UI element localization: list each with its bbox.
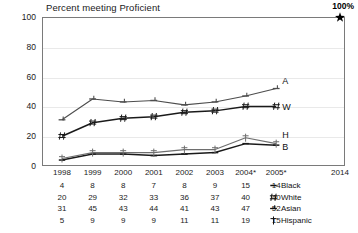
chart-root: Percent meeting Proficient 100% 02040608… [0,0,358,233]
table-cell: 43 [119,204,128,213]
table-cell: 41 [180,204,189,213]
x-tick-label: 2001 [145,168,163,177]
legend-label: White [281,193,301,202]
table-cell: 8 [182,181,186,190]
y-tick-label: 100 [22,12,36,22]
table-cell: 40 [241,193,250,202]
table-cell: 4 [60,181,64,190]
series-end-label-asian: A [282,76,288,86]
chart-title: Percent meeting Proficient [46,2,160,13]
table-cell: 36 [180,193,189,202]
legend-item-asian[interactable]: Asian [267,203,301,214]
series-marker-star [335,12,345,21]
table-cell: 7 [152,181,156,190]
x-tick-label-target-year: 2014 [331,168,349,177]
series-marker-hash [273,103,280,110]
table-cell: 43 [211,204,220,213]
y-tick-label: 60 [27,72,36,82]
series-white [58,103,279,140]
legend-item-black[interactable]: Black [267,180,301,191]
series-marker-dagger [271,216,277,224]
table-cell: 29 [88,193,97,202]
table-cell: 44 [149,204,158,213]
x-tick-label: 2000 [114,168,132,177]
x-tick-label: 1999 [84,168,102,177]
y-tick-label: 0 [31,161,36,171]
series-marker-dash-tick [270,205,277,209]
series-black [59,144,280,160]
series-end-label-white: W [282,102,291,112]
x-tick-label: 2002 [175,168,193,177]
y-tick-label: 40 [27,101,36,111]
table-cell: 8 [90,181,94,190]
series-marker-dash-tick [181,102,188,106]
target-percent-annotation: 100% [332,1,354,11]
series-hispanic [59,134,279,163]
series-marker-dash-tick [120,99,127,103]
x-tick-label: 1998 [53,168,71,177]
table-cell: 33 [149,193,158,202]
legend-label: Black [281,181,301,190]
series-marker-hash [270,193,277,200]
series-end-label-hispanic: H [282,130,289,140]
table-cell: 9 [213,181,217,190]
x-tick-label: 2005* [266,168,287,177]
table-cell: 9 [90,216,94,225]
x-tick-label: 2004* [235,168,256,177]
series-marker-dash-tick [89,96,96,100]
legend-label: Asian [281,204,301,213]
series-marker-dash-tick [212,99,219,103]
x-axis-labels: 1998199920002001200220032004*2005*2014 [42,168,345,180]
chart-legend: BlackWhiteAsianHispanic [267,180,357,230]
table-cell: 45 [88,204,97,213]
series-marker-dash-tick [273,85,280,89]
table-cell: 20 [58,193,67,202]
table-cell: 5 [60,216,64,225]
table-cell: 47 [241,204,250,213]
legend-marker-dash-icon [267,180,280,191]
table-cell: 11 [180,216,188,225]
table-cell: 8 [121,181,125,190]
y-tick-label: 80 [27,42,36,52]
legend-marker-hash-icon [267,192,280,203]
table-cell: 37 [211,193,220,202]
legend-label: Hispanic [281,216,312,225]
table-cell: 19 [241,216,250,225]
table-cell: 15 [241,181,250,190]
table-cell: 11 [211,216,219,225]
legend-item-white[interactable]: White [267,192,301,203]
x-tick-label: 2003 [206,168,224,177]
legend-item-hispanic[interactable]: Hispanic [267,215,312,226]
series-marker-dash-tick [242,93,249,97]
table-cell: 9 [152,216,156,225]
y-axis: 020406080100 [0,17,40,166]
table-cell: 32 [119,193,128,202]
table-cell: 31 [58,204,67,213]
series-layer [42,17,345,166]
y-tick-label: 20 [27,131,36,141]
series-end-label-black: B [282,142,288,152]
series-marker-dash-tick [150,97,157,101]
table-cell: 9 [121,216,125,225]
legend-marker-dash-tick-icon [267,203,280,214]
legend-marker-dagger-icon [267,215,280,226]
